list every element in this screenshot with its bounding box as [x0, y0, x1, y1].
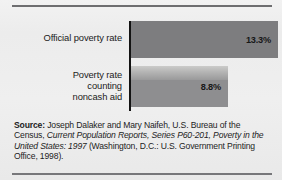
bar-value-label: 8.8% [201, 82, 221, 92]
bar-category-label-line: Official poverty rate [14, 32, 122, 43]
bar-poverty-rate-noncash-aid: 8.8% [131, 66, 228, 107]
bar-category-label: Official poverty rate [14, 32, 122, 43]
top-rule [12, 5, 272, 7]
bar-highlight-band [131, 66, 228, 80]
bar-category-label-line: noncash aid [14, 91, 122, 102]
source-note: Source: Joseph Dalaker and Mary Naifeh, … [14, 120, 266, 162]
bar-category-label-line: counting [14, 80, 122, 91]
bottom-rule [12, 173, 272, 175]
bar-row: Official poverty rate 13.3% [12, 21, 272, 58]
bar-category-label: Poverty rate counting noncash aid [14, 69, 122, 103]
bar-value-label: 13.3% [246, 35, 271, 45]
bar-chart: Official poverty rate 13.3% Poverty rate… [12, 18, 272, 113]
bar-row: Poverty rate counting noncash aid 8.8% [12, 66, 272, 107]
source-label: Source: [14, 120, 45, 130]
bar-category-label-line: Poverty rate [14, 69, 122, 80]
bar-official-poverty-rate: 13.3% [131, 21, 278, 58]
figure-container: Official poverty rate 13.3% Poverty rate… [0, 0, 282, 180]
